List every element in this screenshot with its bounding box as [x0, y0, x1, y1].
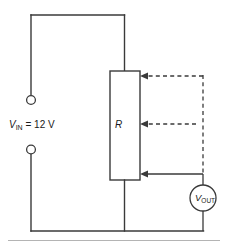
wiper-arrows: [140, 73, 203, 178]
source-label-subscript: IN: [16, 124, 23, 131]
wiper-arrow-top-head: [140, 73, 148, 80]
output-meter: VOUT: [190, 174, 216, 231]
positive-terminal-icon: [27, 96, 36, 105]
wiper-arrow-bottom-head: [140, 171, 148, 178]
wiper-arrow-middle-head: [140, 121, 148, 128]
source-label: VIN = 12 V: [9, 119, 55, 131]
negative-terminal-icon: [27, 145, 36, 154]
source-label-value: = 12 V: [23, 119, 55, 130]
circuit-diagram: VIN = 12 V R: [0, 0, 228, 246]
resistor-label: R: [115, 119, 122, 130]
resistor: R: [110, 15, 140, 231]
meter-label-subscript: OUT: [201, 197, 215, 204]
